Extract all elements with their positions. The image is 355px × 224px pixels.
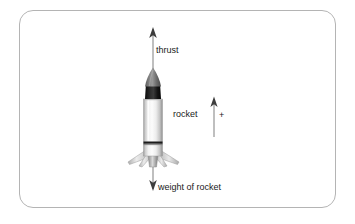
rocket-label: rocket: [173, 109, 198, 120]
weight-of-rocket-label: weight of rocket: [158, 182, 221, 193]
thrust-label: thrust: [156, 45, 179, 56]
rocket-diagram-figure: thrust rocket weight of rocket +: [0, 0, 355, 224]
positive-sign-label: +: [219, 110, 224, 121]
